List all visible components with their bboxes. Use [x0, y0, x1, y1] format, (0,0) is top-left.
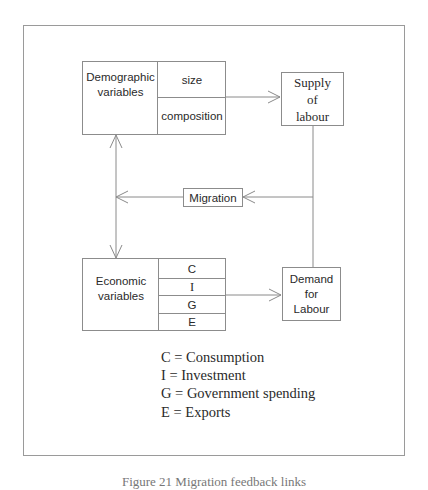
economic-i: I [159, 279, 225, 295]
legend-item-e: E = Exports [161, 403, 315, 421]
economic-c: C [159, 259, 225, 278]
economic-e: E [159, 314, 225, 330]
supply-of-labour-box: Supply of labour [281, 72, 344, 126]
demographic-variables-box: Demographic variables size composition [82, 61, 226, 135]
economic-g: G [159, 296, 225, 313]
economic-variables-box: Economic variables C I G E [82, 258, 226, 331]
demographic-composition: composition [158, 98, 226, 134]
legend-item-c: C = Consumption [161, 348, 315, 366]
legend: C = Consumption I = Investment G = Gover… [161, 348, 315, 421]
migration-box: Migration [183, 188, 243, 207]
economic-label: Economic variables [83, 259, 159, 319]
demographic-size: size [158, 62, 226, 97]
figure-caption: Figure 21 Migration feedback links [0, 474, 428, 490]
legend-item-i: I = Investment [161, 366, 315, 384]
demand-for-labour-box: Demand for Labour [282, 267, 341, 321]
legend-item-g: G = Government spending [161, 384, 315, 402]
demographic-label: Demographic variables [83, 62, 158, 108]
